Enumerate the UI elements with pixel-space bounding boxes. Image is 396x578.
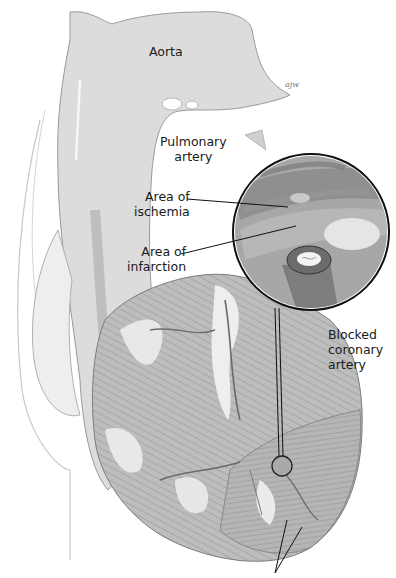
label-area-of-ischemia: Area of ischemia <box>134 189 190 219</box>
ventricle-shape <box>92 274 362 561</box>
label-area-of-infarction: Area of infarction <box>127 244 186 274</box>
label-aorta: Aorta <box>149 44 183 59</box>
heart-illustration <box>0 0 396 578</box>
blockage-site-marker <box>272 456 292 476</box>
artist-signature: ajw <box>285 80 299 89</box>
label-blocked-coronary-artery: Blocked coronary artery <box>328 327 383 372</box>
label-pulmonary-artery: Pulmonary artery <box>160 134 227 164</box>
